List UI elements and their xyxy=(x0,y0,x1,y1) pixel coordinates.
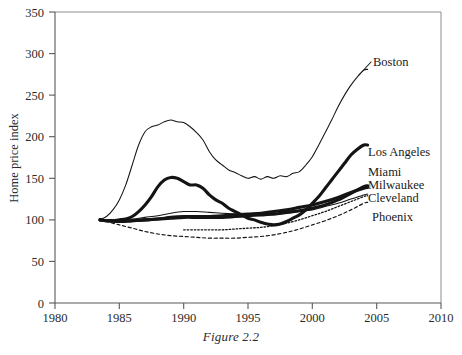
y-tick-label-0: 0 xyxy=(38,297,44,311)
x-tick-label-1980: 1980 xyxy=(43,311,68,325)
series-line-boston xyxy=(100,69,368,219)
x-tick-label-2010: 2010 xyxy=(429,311,454,325)
label-leader-lines xyxy=(359,62,371,75)
x-tick-label-2000: 2000 xyxy=(300,311,325,325)
figure-container: 0 50 100 150 200 250 300 350 1980 1985 1… xyxy=(0,0,462,355)
y-tick-label-250: 250 xyxy=(25,89,44,103)
y-tick-label-200: 200 xyxy=(25,130,44,144)
series-label-los-angeles: Los Angeles xyxy=(368,145,430,159)
leader-line-boston xyxy=(359,62,371,75)
figure-caption: Figure 2.2 xyxy=(0,329,462,345)
y-tick-label-300: 300 xyxy=(25,47,44,61)
x-tick-label-2005: 2005 xyxy=(364,311,389,325)
y-tick-label-100: 100 xyxy=(25,213,44,227)
series-line-los-angeles xyxy=(100,145,368,225)
y-tick-label-50: 50 xyxy=(32,255,45,269)
x-tick-label-1985: 1985 xyxy=(107,311,132,325)
series-label-miami: Miami xyxy=(368,165,402,179)
y-axis-ticks: 0 50 100 150 200 250 300 350 xyxy=(25,6,55,311)
y-axis-title: Home price index xyxy=(7,112,21,202)
home-price-index-chart: 0 50 100 150 200 250 300 350 1980 1985 1… xyxy=(0,0,462,355)
series-label-milwaukee: Milwaukee xyxy=(368,178,425,192)
series-label-boston: Boston xyxy=(373,55,409,69)
x-tick-label-1995: 1995 xyxy=(236,311,261,325)
series-labels: Boston Los Angeles Miami Milwaukee Cleve… xyxy=(368,55,430,224)
y-tick-label-150: 150 xyxy=(25,172,44,186)
x-axis-ticks: 1980 1985 1990 1995 2000 2005 2010 xyxy=(43,303,454,325)
series-label-cleveland: Cleveland xyxy=(368,191,419,205)
data-series-group xyxy=(100,69,368,238)
y-tick-label-350: 350 xyxy=(25,6,44,20)
x-tick-label-1990: 1990 xyxy=(171,311,196,325)
series-label-phoenix: Phoenix xyxy=(372,210,414,224)
